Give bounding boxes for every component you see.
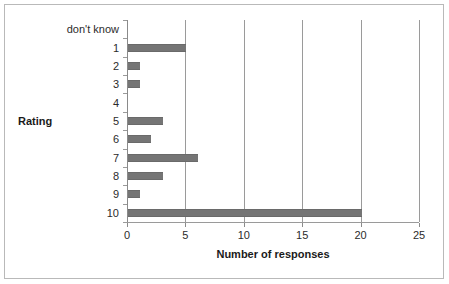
x-axis-tick <box>127 223 128 227</box>
bar-chart-figure: Rating don't know12345678910 0510152025 … <box>0 0 449 284</box>
y-axis-tick <box>123 167 127 168</box>
x-axis-tick-label: 15 <box>287 229 317 241</box>
plot-area <box>127 20 419 222</box>
x-axis-tick-label: 20 <box>346 229 376 241</box>
x-axis-tick <box>244 223 245 227</box>
y-axis-tick-label: 2 <box>113 60 119 72</box>
y-axis-tick-label: 5 <box>113 115 119 127</box>
y-axis-tick-label: 10 <box>107 207 119 219</box>
y-axis-tick <box>123 112 127 113</box>
y-axis-tick <box>123 93 127 94</box>
x-axis-tick-label: 25 <box>404 229 434 241</box>
bar <box>128 44 186 52</box>
gridline-10 <box>244 20 245 222</box>
bar <box>128 172 163 180</box>
x-axis-tick <box>185 223 186 227</box>
x-axis-tick <box>419 223 420 227</box>
x-axis-tick-label: 5 <box>170 229 200 241</box>
y-axis-tick <box>123 20 127 21</box>
x-axis-tick-label: 10 <box>229 229 259 241</box>
bar <box>128 62 140 70</box>
x-axis-tick <box>361 223 362 227</box>
x-axis-tick-label: 0 <box>112 229 142 241</box>
bar <box>128 209 362 217</box>
bar <box>128 117 163 125</box>
x-axis-title: Number of responses <box>127 248 419 260</box>
y-axis-tick <box>123 57 127 58</box>
gridline-25 <box>419 20 420 222</box>
y-axis-tick <box>123 204 127 205</box>
y-axis-tick-label: 9 <box>113 188 119 200</box>
x-axis-tick <box>302 223 303 227</box>
y-axis-tick <box>123 185 127 186</box>
y-axis-tick-label: 3 <box>113 78 119 90</box>
gridline-15 <box>302 20 303 222</box>
y-axis-tick-label: 6 <box>113 133 119 145</box>
gridline-20 <box>361 20 362 222</box>
bar <box>128 135 151 143</box>
y-axis-tick-label: 1 <box>113 42 119 54</box>
y-axis-tick <box>123 38 127 39</box>
y-axis-tick-label: don't know <box>67 23 119 35</box>
y-axis-tick-label: 8 <box>113 170 119 182</box>
x-axis-line <box>127 222 419 223</box>
y-axis-tick-label: 4 <box>113 97 119 109</box>
y-axis-tick <box>123 130 127 131</box>
y-axis-tick <box>123 149 127 150</box>
bar <box>128 80 140 88</box>
y-axis-tick-labels: don't know12345678910 <box>0 0 119 222</box>
y-axis-tick-label: 7 <box>113 152 119 164</box>
y-axis-tick <box>123 75 127 76</box>
bar <box>128 190 140 198</box>
bar <box>128 154 198 162</box>
